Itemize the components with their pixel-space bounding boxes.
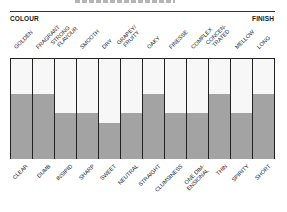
bottom-axis-label: SPIRITY <box>230 163 250 183</box>
top-axis-label: MELLOW <box>234 29 255 50</box>
top-axis-label: FINESSE <box>167 29 188 50</box>
chart-column <box>98 59 120 159</box>
bar-fill <box>143 94 164 159</box>
chart-column <box>252 59 275 159</box>
bar-fill <box>33 94 54 159</box>
top-axis-label: GRAPEY/FRUITY <box>116 24 142 50</box>
label-line: LONG <box>256 35 271 50</box>
bar-fill <box>231 113 252 159</box>
top-axis-label: GOLDEN <box>13 29 34 50</box>
label-line: THIN <box>215 163 228 176</box>
chart-column <box>10 59 32 159</box>
label-line: GOLDEN <box>13 29 34 50</box>
chart-column <box>208 59 230 159</box>
label-line: SWEET <box>99 163 117 181</box>
bar-fill <box>77 113 98 159</box>
label-line: SHARP <box>78 163 96 181</box>
label-line: FINESSE <box>167 29 188 50</box>
label-line: SMOOTH <box>79 28 101 50</box>
bottom-axis-label: SHARP <box>78 163 96 181</box>
label-line: SPIRITY <box>230 163 250 183</box>
bar-fill <box>187 113 208 159</box>
chart-column <box>120 59 142 159</box>
chart-column <box>32 59 54 159</box>
colour-label: COLOUR <box>10 15 39 22</box>
clipped-title <box>75 0 175 3</box>
chart-column <box>186 59 208 159</box>
bar-fill <box>165 113 186 159</box>
top-axis-label: LONG <box>256 35 271 50</box>
finish-label: FINISH <box>252 15 274 22</box>
bottom-axis-label: SWEET <box>99 163 117 181</box>
top-axis-label: OAKY <box>145 35 160 50</box>
bottom-axis-label: THIN <box>215 163 228 176</box>
label-line: MELLOW <box>234 29 255 50</box>
label-line: INSIPID <box>55 163 74 182</box>
chart-column <box>164 59 186 159</box>
bar-fill <box>209 94 230 159</box>
chart-column <box>54 59 76 159</box>
bar-fill <box>11 94 32 159</box>
bar-fill <box>55 113 76 159</box>
bar-fill <box>121 113 142 159</box>
label-line: DRY <box>101 37 114 50</box>
label-line: DUMB <box>35 163 51 179</box>
bottom-axis-label: ONE DIM-ENSIONAL <box>180 163 211 194</box>
bar-fill <box>253 94 274 159</box>
chart-column <box>142 59 164 159</box>
bottom-axis-label: SHORT <box>254 163 272 181</box>
bottom-axis-label: INSIPID <box>55 163 74 182</box>
label-line: SHORT <box>254 163 272 181</box>
top-axis-label: SMOOTH <box>79 28 101 50</box>
bottom-axis-label: DUMB <box>35 163 51 179</box>
bottom-axis-label: CLEAR <box>12 163 29 180</box>
label-line: CLEAR <box>12 163 29 180</box>
chart-column <box>230 59 252 159</box>
header-rule <box>10 11 275 12</box>
top-axis-label: DRY <box>101 37 114 50</box>
chart-column <box>76 59 98 159</box>
bar-fill <box>99 123 120 159</box>
bar-chart <box>10 58 275 159</box>
label-line: OAKY <box>145 35 160 50</box>
